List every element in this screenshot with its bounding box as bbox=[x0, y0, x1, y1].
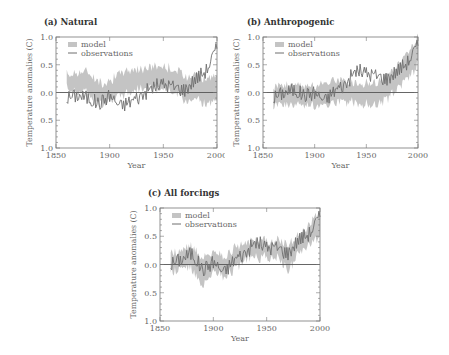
x-tick-label: 2000 bbox=[310, 324, 330, 333]
y-tick-label: 1.0 bbox=[144, 204, 157, 213]
y-tick-label: 1.0 bbox=[144, 317, 157, 326]
y-axis-label: Temperature anomalies (C) bbox=[129, 210, 138, 318]
legend-model-label: model bbox=[185, 211, 210, 220]
y-tick-label: 0.5 bbox=[144, 232, 157, 241]
legend-observations-label: observations bbox=[185, 220, 237, 229]
y-tick-label: 0.0 bbox=[144, 261, 157, 270]
x-tick-label: 1950 bbox=[256, 324, 276, 333]
chart-all-forcings: 18501900195020001.00.50.00.51.0YearTempe… bbox=[0, 0, 449, 355]
y-tick-label: 0.5 bbox=[144, 289, 157, 298]
x-axis-label: Year bbox=[230, 334, 249, 343]
x-tick-label: 1900 bbox=[203, 324, 223, 333]
legend-model-swatch bbox=[172, 213, 181, 218]
